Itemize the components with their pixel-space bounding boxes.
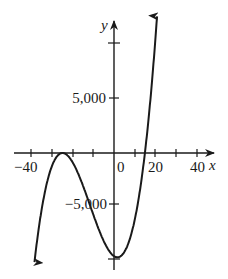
x-tick-label-neg40: −40 (14, 159, 37, 175)
x-axis-label: x (208, 157, 216, 173)
y-tick-label-5000: 5,000 (72, 90, 106, 106)
y-tick-label-neg5000: −5,000 (65, 196, 107, 212)
y-axis-label: y (99, 17, 108, 33)
x-tick-label-0: 0 (117, 159, 125, 175)
x-tick-label-40: 40 (190, 159, 205, 175)
cubic-function-graph: −40 0 20 40 x 5,000 −5,000 y (0, 0, 228, 279)
x-tick-label-20: 20 (148, 159, 163, 175)
function-curve (35, 16, 158, 262)
